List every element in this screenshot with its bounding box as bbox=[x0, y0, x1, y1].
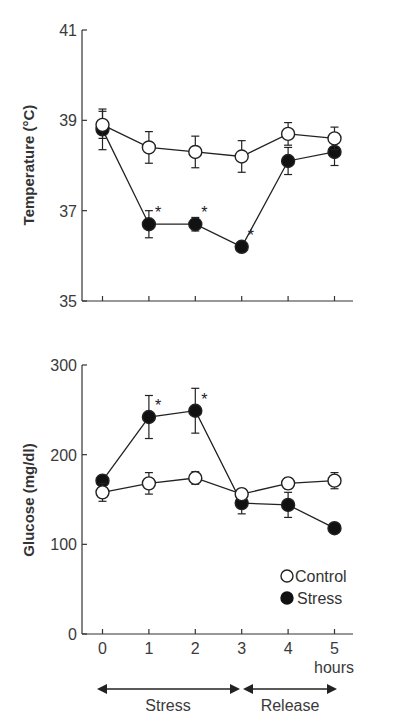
stress-data-point bbox=[282, 498, 295, 511]
stress-data-point bbox=[142, 218, 155, 231]
legend: Control Stress bbox=[281, 568, 347, 607]
control-data-point bbox=[142, 141, 155, 154]
significance-marker: * bbox=[155, 204, 161, 221]
significance-marker: * bbox=[155, 397, 161, 414]
control-data-point bbox=[142, 477, 155, 490]
control-data-point bbox=[96, 118, 109, 131]
x-tick-label: 0 bbox=[98, 640, 107, 657]
stress-data-point bbox=[189, 404, 202, 417]
x-tick-label: 3 bbox=[237, 640, 246, 657]
arrowhead-right-icon bbox=[327, 684, 337, 694]
control-line bbox=[103, 125, 335, 157]
stress-data-point bbox=[189, 218, 202, 231]
stress-phase-arrow bbox=[97, 684, 240, 694]
control-data-point bbox=[328, 474, 341, 487]
control-line bbox=[103, 478, 335, 494]
time-annotation: 012345 hours Stress Release bbox=[97, 640, 354, 714]
x-tick-label: 4 bbox=[284, 640, 293, 657]
significance-marker: * bbox=[248, 227, 254, 244]
y-tick-label: 35 bbox=[59, 293, 77, 310]
control-data-point bbox=[189, 145, 202, 158]
stress-data-point bbox=[328, 522, 341, 535]
x-tick-labels: 012345 bbox=[98, 640, 339, 657]
y-axis-title: Temperature (°C) bbox=[20, 105, 37, 226]
arrowhead-left-icon bbox=[243, 684, 253, 694]
arrowhead-left-icon bbox=[97, 684, 107, 694]
control-data-point bbox=[235, 488, 248, 501]
release-phase-label: Release bbox=[261, 697, 320, 714]
temperature-panel: 35373941Temperature (°C)*** bbox=[20, 22, 353, 310]
stress-phase-label: Stress bbox=[145, 697, 190, 714]
x-tick-label: 2 bbox=[191, 640, 200, 657]
stress-line bbox=[103, 411, 335, 528]
y-tick-label: 200 bbox=[50, 447, 77, 464]
stress-data-point bbox=[235, 240, 248, 253]
control-data-point bbox=[282, 477, 295, 490]
control-data-point bbox=[96, 486, 109, 499]
legend-control-label: Control bbox=[295, 568, 347, 585]
y-axis-title: Glucose (mg/dl) bbox=[20, 443, 37, 556]
y-tick-label: 100 bbox=[50, 536, 77, 553]
stress-marker-icon bbox=[281, 592, 293, 604]
y-tick-label: 39 bbox=[59, 112, 77, 129]
control-marker-icon bbox=[281, 570, 293, 582]
y-tick-label: 300 bbox=[50, 357, 77, 374]
arrowhead-right-icon bbox=[230, 684, 240, 694]
x-tick-label: 5 bbox=[330, 640, 339, 657]
x-axis-unit: hours bbox=[314, 659, 354, 676]
stress-line bbox=[103, 129, 335, 246]
control-data-point bbox=[282, 127, 295, 140]
x-tick-label: 1 bbox=[144, 640, 153, 657]
significance-marker: * bbox=[201, 391, 207, 408]
y-tick-label: 37 bbox=[59, 203, 77, 220]
y-tick-label: 41 bbox=[59, 22, 77, 39]
control-data-point bbox=[328, 132, 341, 145]
control-data-point bbox=[189, 471, 202, 484]
release-phase-arrow bbox=[243, 684, 337, 694]
y-tick-label: 0 bbox=[68, 626, 77, 643]
legend-stress-label: Stress bbox=[297, 590, 342, 607]
significance-marker: * bbox=[201, 204, 207, 221]
stress-data-point bbox=[142, 411, 155, 424]
control-data-point bbox=[235, 150, 248, 163]
stress-data-point bbox=[282, 154, 295, 167]
figure: 35373941Temperature (°C)*** 0100200300Gl… bbox=[0, 0, 395, 723]
